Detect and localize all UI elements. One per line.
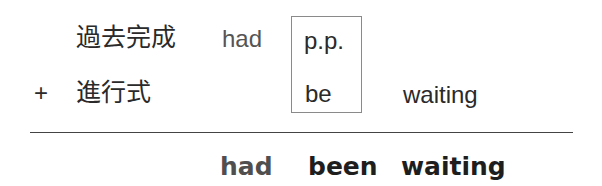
result-waiting-text: waiting <box>401 154 506 179</box>
past-participle-text: p.p. <box>304 29 344 53</box>
result-had-text: had <box>220 154 273 179</box>
be-text: be <box>305 82 332 106</box>
divider-line <box>30 132 573 133</box>
progressive-label: 進行式 <box>76 80 151 105</box>
past-perfect-label: 過去完成 <box>76 25 176 50</box>
result-been-text: been <box>308 154 378 179</box>
had-auxiliary-text: had <box>222 27 262 51</box>
plus-operator: + <box>34 81 48 105</box>
waiting-text: waiting <box>403 83 478 107</box>
